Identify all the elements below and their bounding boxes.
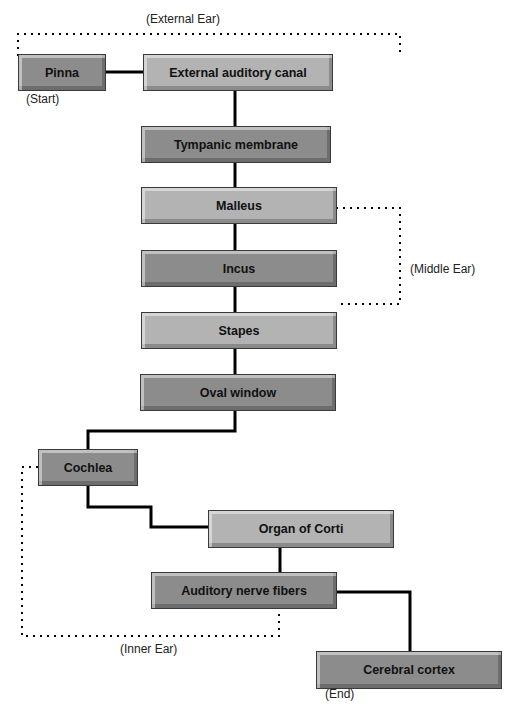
- node-stapes: Stapes: [141, 312, 337, 349]
- node-auditory-nerve-fibers: Auditory nerve fibers: [151, 572, 337, 609]
- node-oval-window: Oval window: [140, 374, 336, 411]
- node-tympanic-membrane: Tympanic membrane: [141, 126, 331, 163]
- node-cochlea: Cochlea: [38, 449, 138, 486]
- node-malleus: Malleus: [141, 187, 337, 224]
- end-marker: (End): [325, 687, 354, 701]
- group-label-middle-ear: (Middle Ear): [410, 262, 475, 276]
- group-label-external-ear: (External Ear): [146, 12, 220, 26]
- start-marker: (Start): [26, 92, 59, 106]
- node-cerebral-cortex: Cerebral cortex: [316, 651, 502, 689]
- node-external-auditory-canal: External auditory canal: [143, 54, 333, 91]
- node-pinna: Pinna: [18, 54, 106, 91]
- group-label-inner-ear: (Inner Ear): [120, 642, 177, 656]
- node-organ-of-corti: Organ of Corti: [208, 510, 394, 548]
- node-incus: Incus: [141, 250, 337, 287]
